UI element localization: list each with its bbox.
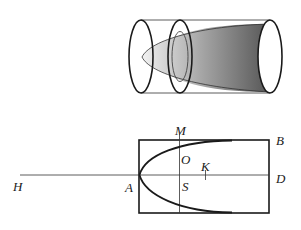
- figure-canvas: [0, 0, 301, 230]
- label-M: M: [175, 124, 186, 137]
- label-B: B: [276, 134, 284, 147]
- label-D: D: [276, 172, 285, 185]
- label-K: K: [201, 160, 210, 173]
- label-A: A: [125, 181, 133, 194]
- paraboloid-outline: [142, 24, 270, 92]
- label-H: H: [13, 180, 22, 193]
- section-diagram: [20, 134, 269, 213]
- cylinder-right-ellipse: [258, 20, 282, 93]
- bounding-rectangle: [139, 140, 269, 213]
- label-O: O: [181, 153, 190, 166]
- cylinder-paraboloid-figure: [129, 20, 282, 93]
- label-S: S: [182, 180, 189, 193]
